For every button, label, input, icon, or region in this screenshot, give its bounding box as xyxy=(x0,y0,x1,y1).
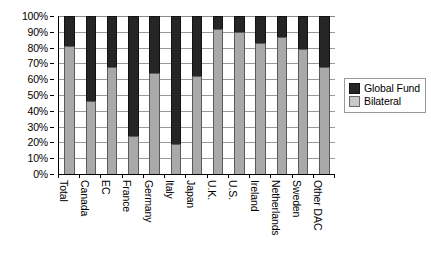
x-axis-tick-label: Germany xyxy=(143,180,154,222)
y-axis-tick-label: 50% xyxy=(28,90,48,100)
legend-item[interactable]: Bilateral xyxy=(349,95,420,108)
x-axis-tick-label: EC xyxy=(100,180,111,194)
bar-column xyxy=(234,16,245,174)
bar-series-group xyxy=(59,16,335,174)
y-axis-tick-mark xyxy=(50,127,54,128)
bar-segment-global-fund xyxy=(277,16,288,37)
bar-column xyxy=(64,16,75,174)
x-axis-tick-label: Japan xyxy=(185,180,196,208)
y-axis-tick-mark xyxy=(50,158,54,159)
legend-item[interactable]: Global Fund xyxy=(349,82,420,95)
x-axis-label-slot: Other DAC xyxy=(315,178,331,252)
y-axis-tick-label: 90% xyxy=(28,27,48,37)
x-axis-tick-label: Total xyxy=(58,180,69,202)
x-axis-label-slot: U.K. xyxy=(209,178,225,252)
bar-segment-bilateral xyxy=(192,76,203,174)
bar-segment-global-fund xyxy=(234,16,245,32)
bar-segment-global-fund xyxy=(298,16,309,49)
x-axis-label-slot: Italy xyxy=(167,178,183,252)
x-axis-tick-label: Sweden xyxy=(291,180,302,217)
bar-segment-global-fund xyxy=(107,16,118,67)
bar-segment-bilateral xyxy=(319,67,330,174)
y-axis-tick-label: 20% xyxy=(28,137,48,147)
bar-column xyxy=(192,16,203,174)
y-axis-tick-label: 10% xyxy=(28,153,48,163)
y-axis-tick-mark xyxy=(50,32,54,33)
y-axis-tick-label: 80% xyxy=(28,43,48,53)
y-axis-tick-mark xyxy=(50,48,54,49)
bar-segment-global-fund xyxy=(128,16,139,136)
bar-segment-bilateral xyxy=(298,49,309,174)
x-axis-label-slot: Germany xyxy=(146,178,162,252)
bar-segment-global-fund xyxy=(192,16,203,76)
y-axis-tick-mark xyxy=(50,63,54,64)
stacked-bar-chart: 100%90%80%70%60%50%40%30%20%10%0% TotalC… xyxy=(0,0,431,254)
x-axis-label-slot: Japan xyxy=(188,178,204,252)
bar-segment-global-fund xyxy=(319,16,330,67)
bar-segment-global-fund xyxy=(255,16,266,43)
bar-column xyxy=(128,16,139,174)
legend-label: Global Fund xyxy=(364,83,420,94)
bar-segment-bilateral xyxy=(171,144,182,174)
bar-segment-bilateral xyxy=(213,29,224,174)
bar-column xyxy=(213,16,224,174)
x-axis-tick-label: Italy xyxy=(164,180,175,199)
bar-column xyxy=(149,16,160,174)
x-axis-label-slot: U.S. xyxy=(230,178,246,252)
bar-segment-global-fund xyxy=(171,16,182,144)
bar-segment-global-fund xyxy=(149,16,160,73)
y-axis-tick-mark xyxy=(50,79,54,80)
y-axis-tick-label: 60% xyxy=(28,74,48,84)
y-axis-tick-mark xyxy=(50,142,54,143)
x-axis-label-slot: Sweden xyxy=(294,178,310,252)
bar-segment-bilateral xyxy=(234,32,245,174)
y-axis-tick-label: 40% xyxy=(28,106,48,116)
x-axis-label-slot: Netherlands xyxy=(273,178,289,252)
legend-swatch-bilateral xyxy=(349,96,360,107)
x-axis-tick-label: France xyxy=(121,180,132,212)
bar-segment-bilateral xyxy=(277,37,288,174)
bar-segment-bilateral xyxy=(149,73,160,174)
y-axis-tick-mark xyxy=(50,16,54,17)
bar-segment-bilateral xyxy=(107,67,118,174)
bar-column xyxy=(107,16,118,174)
y-axis-tick-mark xyxy=(50,95,54,96)
bar-column xyxy=(319,16,330,174)
plot-area xyxy=(58,16,335,175)
bar-column xyxy=(255,16,266,174)
x-axis-tick-label: Other DAC xyxy=(312,180,323,230)
x-axis-tick-label: U.S. xyxy=(227,180,238,200)
y-axis-tick-label: 70% xyxy=(28,58,48,68)
x-axis-label-slot: Canada xyxy=(82,178,98,252)
y-axis-tick-label: 100% xyxy=(22,11,48,21)
bar-segment-global-fund xyxy=(64,16,75,46)
bar-column xyxy=(277,16,288,174)
x-axis-tick-label: Netherlands xyxy=(270,180,281,236)
bar-segment-bilateral xyxy=(86,101,97,174)
y-axis-tick-label: 0% xyxy=(33,169,48,179)
y-axis: 100%90%80%70%60%50%40%30%20%10%0% xyxy=(0,16,54,174)
bar-column xyxy=(171,16,182,174)
x-axis-label-slot: Ireland xyxy=(252,178,268,252)
x-axis-tick-label: Ireland xyxy=(249,180,260,211)
y-axis-tick-mark xyxy=(50,111,54,112)
bar-column xyxy=(86,16,97,174)
legend-label: Bilateral xyxy=(364,96,401,107)
x-axis-tick-label: Canada xyxy=(79,180,90,216)
legend-swatch-global xyxy=(349,83,360,94)
bar-segment-global-fund xyxy=(213,16,224,29)
x-axis-label-slot: EC xyxy=(103,178,119,252)
bar-segment-bilateral xyxy=(64,46,75,174)
x-axis-label-slot: Total xyxy=(61,178,77,252)
bar-column xyxy=(298,16,309,174)
bar-segment-bilateral xyxy=(128,136,139,174)
x-axis-labels: TotalCanadaECFranceGermanyItalyJapanU.K.… xyxy=(58,178,336,254)
x-axis-label-slot: France xyxy=(124,178,140,252)
x-axis-tick-label: U.K. xyxy=(206,180,217,200)
chart-legend: Global FundBilateral xyxy=(344,78,426,113)
y-axis-tick-mark xyxy=(50,174,54,175)
bar-segment-global-fund xyxy=(86,16,97,101)
bar-segment-bilateral xyxy=(255,43,266,174)
y-axis-tick-label: 30% xyxy=(28,122,48,132)
